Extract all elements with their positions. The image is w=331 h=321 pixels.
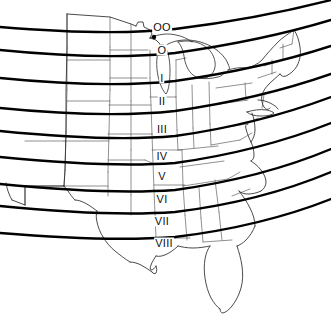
zone-label-v: V	[157, 171, 167, 182]
isoline-ii	[0, 74, 331, 114]
zone-label-vi: VI	[156, 194, 169, 205]
epicenter-dot	[152, 35, 156, 39]
us-seismic-zone-map: OO O I II III IV V VI VII VIII	[0, 0, 331, 321]
zone-label-iv: IV	[156, 151, 169, 162]
zone-label-00: OO	[152, 22, 172, 33]
zone-label-vii: VII	[154, 216, 170, 227]
zone-label-viii: VIII	[154, 238, 174, 249]
zone-label-0: O	[157, 45, 168, 56]
zone-label-iii: III	[156, 124, 168, 135]
zone-label-ii: II	[158, 96, 167, 107]
zone-label-i: I	[159, 73, 164, 84]
